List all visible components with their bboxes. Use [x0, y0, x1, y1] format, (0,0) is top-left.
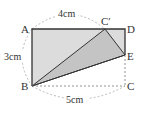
dimension-left: 3cm	[4, 51, 21, 62]
dimension-bottom: 5cm	[66, 94, 83, 105]
label-D: D	[127, 23, 135, 35]
dimension-top: 4cm	[58, 8, 75, 19]
label-A: A	[21, 23, 29, 35]
folded-rectangle-diagram: A D C′ E B C 4cm 3cm 5cm	[0, 0, 142, 114]
label-B: B	[21, 80, 28, 92]
label-E: E	[127, 50, 134, 62]
label-C-prime: C′	[101, 15, 111, 27]
label-C: C	[127, 80, 134, 92]
